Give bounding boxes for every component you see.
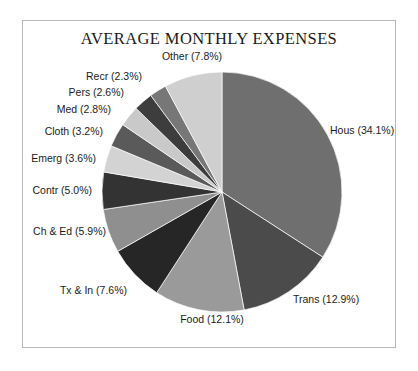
slice-label-contr: Contr (5.0%) — [32, 185, 92, 196]
slice-label-recr: Recr (2.3%) — [86, 71, 142, 82]
slice-label-other: Other (7.8%) — [162, 51, 222, 62]
slice-label-ched: Ch & Ed (5.9%) — [33, 226, 106, 237]
slice-label-cloth: Cloth (3.2%) — [45, 126, 103, 137]
slice-label-trans: Trans (12.9%) — [293, 294, 359, 305]
slice-label-pers: Pers (2.6%) — [69, 87, 124, 98]
slice-label-med: Med (2.8%) — [57, 104, 111, 115]
slice-label-hous: Hous (34.1%) — [330, 125, 394, 136]
slice-label-emerg: Emerg (3.6%) — [31, 153, 96, 164]
slice-label-food: Food (12.1%) — [180, 314, 244, 325]
slice-label-txin: Tx & In (7.6%) — [60, 285, 127, 296]
